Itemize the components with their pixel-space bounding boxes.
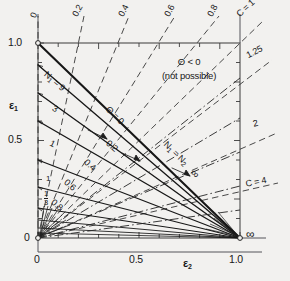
right-convergence-fan xyxy=(206,212,238,236)
corner-marker-bottom-left xyxy=(36,236,41,241)
x-tick-label-1p0: 1.0 xyxy=(229,254,243,265)
theta-family-dashdot-lines xyxy=(38,78,240,238)
fraction-one-third: 1 3 xyxy=(44,190,48,207)
y-tick-label-0p5: 0.5 xyxy=(8,134,22,145)
left-axis-arrowheads xyxy=(38,65,43,211)
y-axis-label: ε1 xyxy=(9,100,18,112)
lower-left-label-1: 1 xyxy=(46,175,50,183)
c-line-1 xyxy=(38,21,263,238)
c-family-dashed-lines xyxy=(38,16,278,238)
right-axis-ticks xyxy=(234,63,240,219)
fraction-numerator: 1 xyxy=(44,189,48,198)
fraction-denominator: 3 xyxy=(44,198,48,207)
y-tick-label-0: 0 xyxy=(24,232,30,243)
c-line-0p8 xyxy=(38,16,219,238)
y-axis-label-subscript: 1 xyxy=(14,105,18,112)
not-possible-note: (not possible) xyxy=(144,71,234,81)
y-tick-label-1p0: 1.0 xyxy=(8,37,22,48)
infinity-corner-label: ∞ xyxy=(246,228,254,240)
x-tick-label-0p5: 0.5 xyxy=(129,254,143,265)
x-tick-label-0: 0 xyxy=(34,254,40,265)
x-axis-label: ε2 xyxy=(183,258,192,270)
lower-left-label-one-third: 1 3 xyxy=(44,190,48,207)
theta-negative-note: Θ < 0 xyxy=(150,57,228,67)
x-axis-label-subscript: 2 xyxy=(188,263,192,270)
n1-third-line xyxy=(38,160,240,238)
corner-marker-bottom-right xyxy=(238,236,243,241)
corner-marker-top-left xyxy=(36,41,41,46)
top-axis-ticks xyxy=(58,43,220,49)
effectiveness-chart: 1.0 0.5 0 ε1 0 0.5 1.0 ε2 ∞ 0 0.2 0.4 0.… xyxy=(0,0,290,281)
